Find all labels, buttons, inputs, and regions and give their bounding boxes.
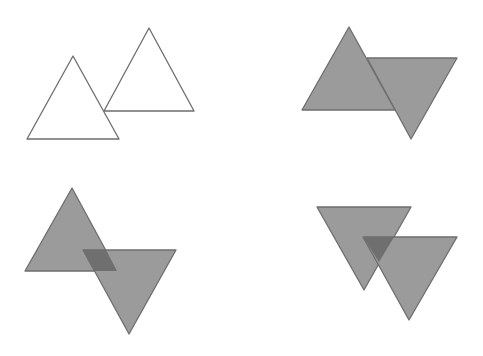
triangle-overlap-diagram bbox=[0, 0, 483, 356]
